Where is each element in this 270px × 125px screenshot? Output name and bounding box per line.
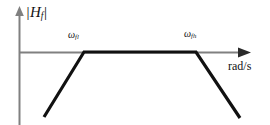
y-axis-arrowhead-icon [15, 6, 24, 16]
magnitude-response-curve [44, 52, 240, 118]
x-axis-arrowhead-icon [238, 47, 251, 57]
marker-label-omega-fh: ωfh [184, 29, 196, 40]
marker-label-omega-fl: ωfl [68, 30, 79, 41]
filter-response-figure: |Hf| ωfl ωfh rad/s [0, 0, 270, 125]
x-axis-units-label: rad/s [228, 60, 251, 72]
y-axis-label: |Hf| [26, 5, 47, 21]
